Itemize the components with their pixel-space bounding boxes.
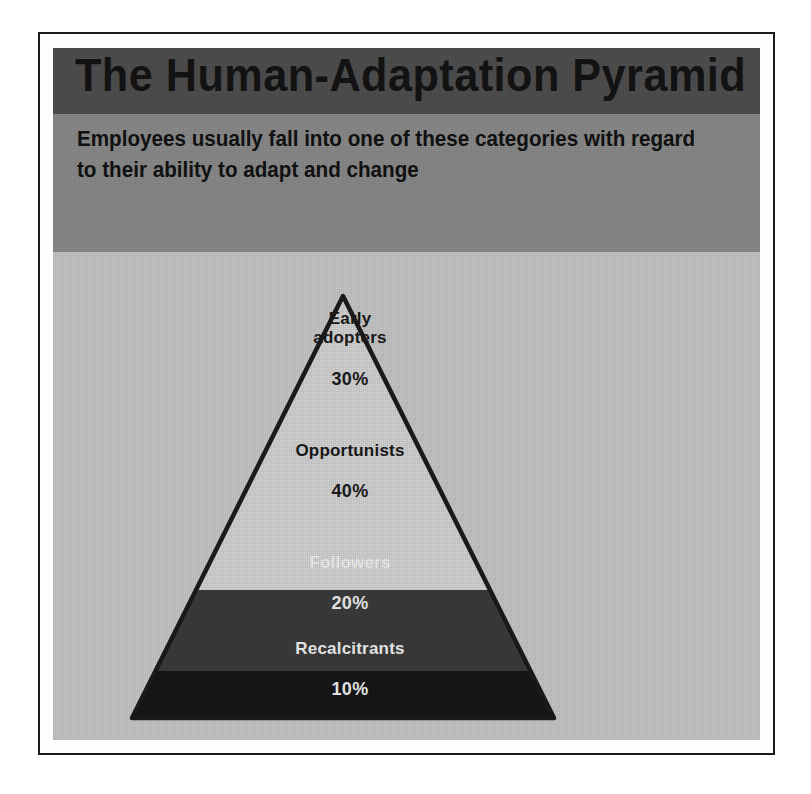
pyramid-tier-opportunists[interactable]	[196, 428, 490, 590]
slide-subtitle: Employees usually fall into one of these…	[77, 124, 696, 186]
pyramid-shape	[53, 252, 760, 740]
pyramid-tier-recalcitrants[interactable]	[132, 671, 554, 718]
slide-header: The Human-Adaptation Pyramid Employees u…	[53, 48, 760, 252]
title-bar: The Human-Adaptation Pyramid	[53, 48, 760, 114]
slide-frame: The Human-Adaptation Pyramid Employees u…	[38, 32, 775, 755]
scanned-page: The Human-Adaptation Pyramid Employees u…	[0, 0, 811, 794]
slide-panel: The Human-Adaptation Pyramid Employees u…	[53, 48, 760, 740]
pyramid-tier-early-adopters[interactable]	[277, 296, 409, 428]
pyramid-diagram: Early adopters 30% Opportunists 40% Foll…	[53, 252, 760, 740]
page-title: The Human-Adaptation Pyramid	[75, 48, 746, 108]
pyramid-tier-followers[interactable]	[155, 590, 531, 671]
